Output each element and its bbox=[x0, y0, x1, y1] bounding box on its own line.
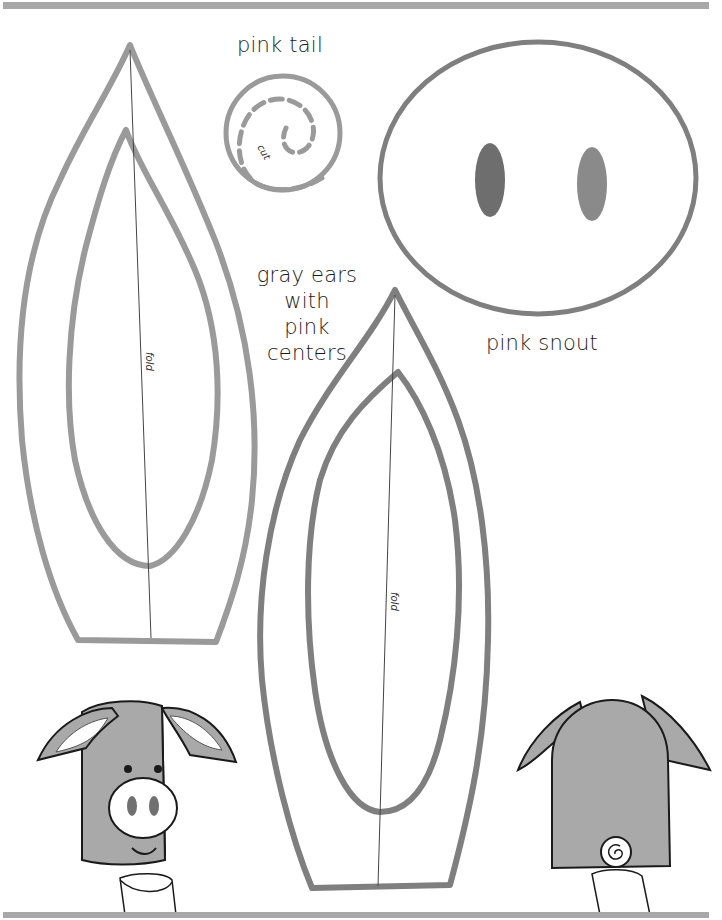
ears-label-line-2: with bbox=[252, 288, 362, 314]
fold-label-right: fold bbox=[389, 592, 400, 611]
pink-tail-piece: cut bbox=[226, 76, 340, 190]
ears-label-line-4: centers bbox=[252, 340, 362, 366]
template-artwork: fold cut fold bbox=[0, 0, 722, 920]
right-ear-piece: fold bbox=[260, 290, 488, 888]
ears-label-line-3: pink bbox=[252, 314, 362, 340]
pink-snout-piece bbox=[380, 42, 696, 314]
pink-snout-label: pink snout bbox=[482, 330, 602, 356]
fold-label-left: fold bbox=[144, 352, 155, 371]
tail-cut-label: cut bbox=[255, 143, 273, 163]
bottom-border-bar bbox=[3, 912, 709, 918]
ears-label-line-1: gray ears bbox=[252, 262, 362, 288]
gray-ears-label: gray ears with pink centers bbox=[252, 262, 362, 366]
pink-tail-label: pink tail bbox=[225, 32, 335, 58]
pig-puppet-front-illustration bbox=[38, 701, 236, 915]
left-ear-piece: fold bbox=[20, 45, 255, 642]
pig-puppet-back-illustration bbox=[518, 696, 710, 915]
